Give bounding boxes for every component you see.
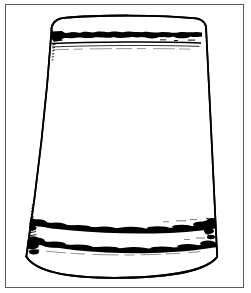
vessel-decoration bbox=[26, 27, 220, 255]
vessel-outline bbox=[26, 16, 217, 278]
vessel-base-outline bbox=[26, 257, 217, 278]
vessel-line-drawing bbox=[0, 0, 251, 293]
upper-thin-line-band bbox=[52, 42, 202, 50]
vessel-outline-overdraw bbox=[26, 16, 217, 278]
lower-dark-band-upper bbox=[27, 218, 218, 234]
figure-root: Truncated conical vessel profile drawing… bbox=[0, 0, 251, 293]
lower-dark-band-lower bbox=[27, 237, 219, 253]
